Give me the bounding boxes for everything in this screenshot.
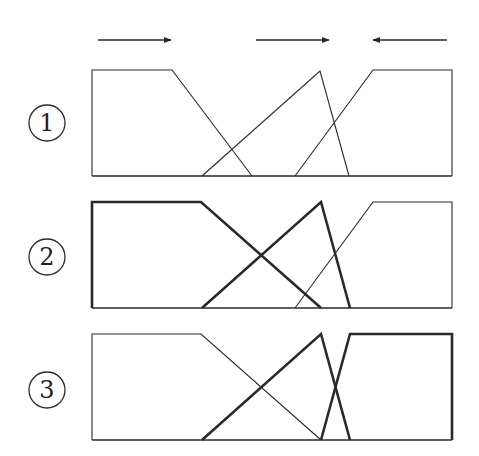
middle-triangle xyxy=(202,202,350,308)
right-trapezoid xyxy=(295,70,452,176)
right-trapezoid xyxy=(295,202,452,308)
fuzzy-membership-diagram: 123 xyxy=(0,0,479,456)
panel-2: 2 xyxy=(29,202,452,308)
panel-label: 1 xyxy=(39,109,54,137)
left-trapezoid xyxy=(92,70,252,176)
panel-label: 2 xyxy=(39,243,54,271)
panel-label: 3 xyxy=(39,376,54,404)
middle-triangle xyxy=(202,334,350,440)
panel-1: 1 xyxy=(29,70,452,176)
right-trapezoid xyxy=(321,334,452,440)
panels: 123 xyxy=(29,70,452,440)
left-trapezoid xyxy=(92,202,321,308)
panel-3: 3 xyxy=(29,334,452,440)
left-trapezoid xyxy=(92,334,321,440)
middle-triangle xyxy=(202,71,349,176)
